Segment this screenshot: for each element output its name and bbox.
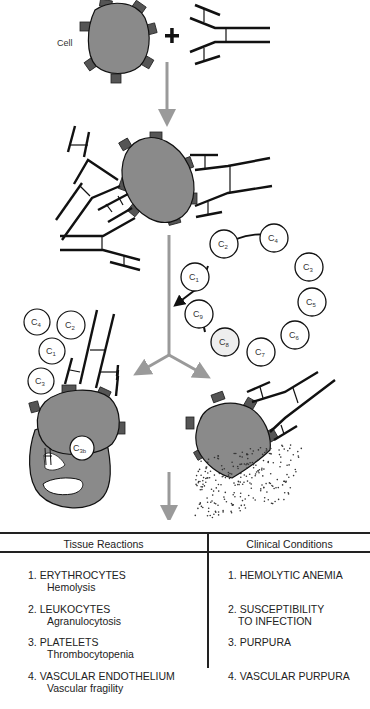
tissue-row-1: 1. ERYTHROCYTES Hemolysis bbox=[28, 569, 126, 593]
phagocyte-engulfing-cell: C3b bbox=[29, 385, 125, 508]
tissue-row-3: 3. PLATELETS Thrombocytopenia bbox=[28, 636, 134, 660]
condition-name-cont: TO INFECTION bbox=[228, 615, 324, 627]
cell-top bbox=[80, 0, 157, 83]
header-tissue-reactions: Tissue Reactions bbox=[0, 538, 207, 550]
tissue-row-2: 2. LEUKOCYTES Agranulocytosis bbox=[28, 603, 121, 627]
complement-cascade-ring: C2 C4 C3 C5 C6 C7 C8 C9 C1 bbox=[178, 224, 326, 366]
tissue-reaction: Thrombocytopenia bbox=[28, 648, 134, 660]
tissue-reaction: Agranulocytosis bbox=[28, 615, 121, 627]
lysed-cell bbox=[186, 391, 278, 478]
condition-row-4: 4. VASCULAR PURPURA bbox=[228, 670, 350, 682]
tissue-name: 4. VASCULAR ENDOTHELIUM bbox=[28, 670, 175, 682]
table-column-divider bbox=[207, 533, 209, 668]
table-header-rule bbox=[0, 551, 370, 553]
tissue-name: 1. ERYTHROCYTES bbox=[28, 569, 126, 581]
condition-name: 4. VASCULAR PURPURA bbox=[228, 670, 350, 682]
tissue-reaction: Hemolysis bbox=[28, 581, 126, 593]
tissue-name: 3. PLATELETS bbox=[28, 636, 134, 648]
cell-label: Cell bbox=[57, 38, 73, 48]
condition-row-2: 2. SUSCEPTIBILITY TO INFECTION bbox=[228, 603, 324, 627]
table-top-rule bbox=[0, 532, 370, 534]
condition-row-3: 3. PURPURA bbox=[228, 636, 291, 648]
header-clinical-conditions: Clinical Conditions bbox=[209, 538, 370, 550]
condition-name: 2. SUSCEPTIBILITY bbox=[228, 603, 324, 615]
complement-mechanism-diagram: Cell bbox=[0, 0, 370, 520]
free-complement-components: C4 C2 C1 C3 bbox=[24, 309, 85, 394]
tissue-reaction: Vascular fragility bbox=[28, 682, 175, 694]
condition-name: 3. PURPURA bbox=[228, 636, 291, 648]
tissue-name: 2. LEUKOCYTES bbox=[28, 603, 121, 615]
tissue-row-4: 4. VASCULAR ENDOTHELIUM Vascular fragili… bbox=[28, 670, 175, 694]
condition-name: 1. HEMOLYTIC ANEMIA bbox=[228, 569, 343, 581]
plus-sign bbox=[165, 28, 179, 43]
antibody-free bbox=[190, 5, 270, 64]
condition-row-1: 1. HEMOLYTIC ANEMIA bbox=[228, 569, 343, 581]
cell-opsonized bbox=[109, 126, 208, 234]
